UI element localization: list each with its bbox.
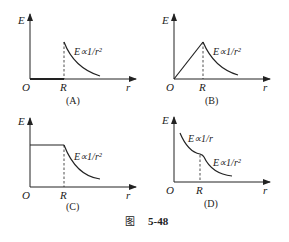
y-axis-label: E [17,115,25,127]
r-tick-label: R [59,81,67,93]
panel-label: (A) [66,95,80,107]
y-axis-label: E [161,114,169,126]
figure-caption: 图 5-48 [125,215,169,227]
y-axis-label: E [17,14,25,26]
panel-label: (C) [66,201,79,213]
panel-label: (B) [205,95,218,107]
origin-label: O [22,189,30,201]
origin-label: O [166,184,174,196]
formula-label-inner: E∝1/r [187,133,213,144]
formula-label: E∝1/r² [73,151,103,162]
r-tick-label: R [198,81,206,93]
origin-label: O [22,81,30,93]
panel-a: E O R r E∝1/r² (A) [17,14,136,107]
panel-label: (D) [204,198,218,210]
figure-5-48: E O R r E∝1/r² (A) E O R r E∝1/r² (B) E … [0,0,289,242]
panel-b: E O R r E∝1/r² (B) [161,14,270,107]
formula-label: E∝1/r² [73,46,103,57]
x-axis-label: r [126,189,131,201]
x-axis-label: r [263,81,268,93]
y-axis-label: E [161,14,169,26]
linear-rise-line [174,42,203,79]
r-tick-label: R [59,189,67,201]
origin-label: O [166,81,174,93]
formula-label: E∝1/r² [212,46,242,57]
x-axis-label: r [263,184,268,196]
r-tick-label: R [195,184,203,196]
caption-number: 5-48 [148,215,169,227]
formula-label-outer: E∝1/r² [212,157,242,168]
caption-prefix: 图 [125,216,135,227]
panel-c: E O R r E∝1/r² (C) [17,115,136,213]
x-axis-label: r [126,81,131,93]
panel-d: E O R r E∝1/r E∝1/r² (D) [161,114,270,210]
